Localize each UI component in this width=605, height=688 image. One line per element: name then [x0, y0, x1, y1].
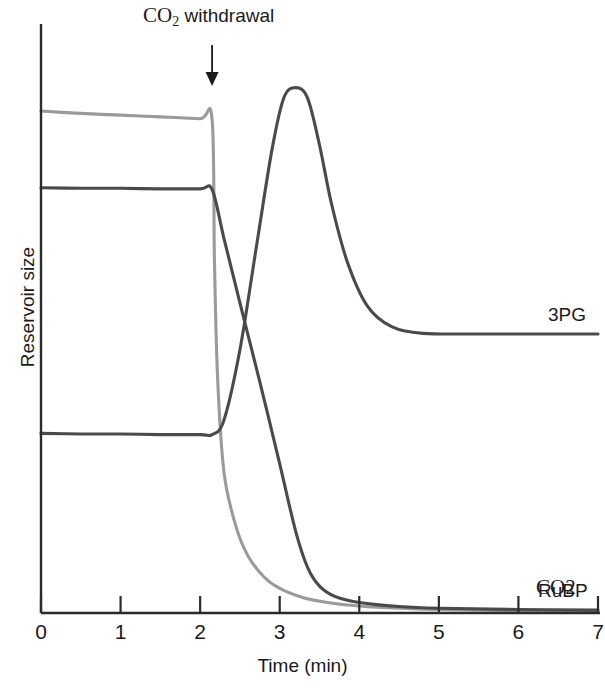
curve-3pg [41, 88, 598, 436]
y-axis-title: Reservoir size [17, 227, 39, 387]
x-axis-title: Time (min) [0, 655, 605, 677]
x-tick-label-5: 5 [424, 620, 454, 644]
x-tick-label-2: 2 [185, 620, 215, 644]
plot-area [0, 0, 605, 688]
x-tick-label-6: 6 [503, 620, 533, 644]
curve-rubp [41, 186, 598, 610]
series-label-co2: CO2 [536, 575, 576, 600]
annotation-arrow-head [206, 72, 219, 86]
chart-figure: CO2 withdrawal 01234567 Time (min) Reser… [0, 0, 605, 688]
curve-co2 [41, 109, 598, 612]
series-label-3pg: 3PG [548, 304, 586, 326]
x-tick-label-1: 1 [106, 620, 136, 644]
x-tick-label-4: 4 [344, 620, 374, 644]
x-tick-label-0: 0 [26, 620, 56, 644]
x-tick-label-3: 3 [265, 620, 295, 644]
x-tick-label-7: 7 [583, 620, 605, 644]
